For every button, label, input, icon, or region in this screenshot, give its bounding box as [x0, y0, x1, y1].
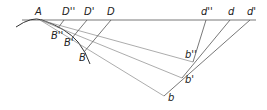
label-B-prime: B' [64, 37, 74, 48]
label-D: D [107, 6, 115, 17]
ray-A-b1 [40, 20, 182, 78]
label-D-prime: D' [84, 6, 94, 17]
ray-A-b2 [40, 20, 193, 62]
label-d-double-prime: d'' [201, 6, 213, 17]
label-b-double-prime: b'' [185, 49, 197, 60]
label-d-prime: d' [247, 6, 256, 17]
label-B-double-prime: B'' [51, 30, 63, 41]
segment-B2-D2 [58, 20, 64, 28]
segment-B1-D1 [72, 20, 87, 38]
label-b-prime: b' [185, 74, 194, 85]
label-A: A [34, 6, 42, 17]
label-d: d [228, 6, 235, 17]
label-D-double-prime: D'' [62, 6, 75, 17]
diagram-canvas: A D'' D' D d'' d d' B'' B' B b'' b' b [0, 0, 267, 110]
label-b: b [168, 92, 174, 103]
label-B: B [79, 52, 86, 63]
segment-b-d1 [164, 20, 250, 96]
